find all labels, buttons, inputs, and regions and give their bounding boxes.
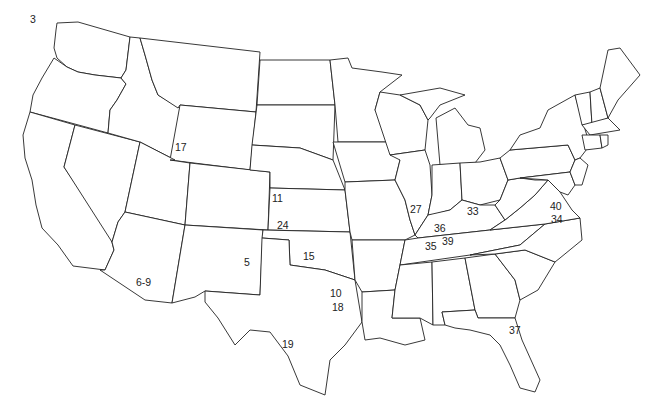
map-label: 40 [550, 201, 562, 212]
map-label: 37 [509, 325, 521, 336]
map-label: 3 [30, 14, 36, 25]
map-label: 5 [244, 257, 250, 268]
state-north-dakota [257, 60, 335, 105]
map-label: 18 [332, 302, 344, 313]
map-label: 35 [425, 241, 437, 252]
map-label: 17 [175, 142, 187, 153]
map-label: 6-9 [136, 277, 151, 288]
map-label: 15 [303, 251, 315, 262]
map-label: 10 [330, 288, 342, 299]
map-label: 27 [410, 204, 422, 215]
map-label: 24 [277, 220, 289, 231]
state-maine [600, 48, 640, 118]
state-connecticut [582, 135, 602, 150]
state-florida [442, 310, 540, 392]
map-label: 34 [551, 214, 563, 225]
map-label: 39 [442, 236, 454, 247]
state-wyoming [170, 105, 256, 170]
map-label: 33 [467, 206, 479, 217]
state-colorado [185, 163, 270, 230]
map-label: 19 [282, 339, 294, 350]
map-label: 11 [272, 193, 283, 204]
map-label: 36 [434, 223, 446, 234]
